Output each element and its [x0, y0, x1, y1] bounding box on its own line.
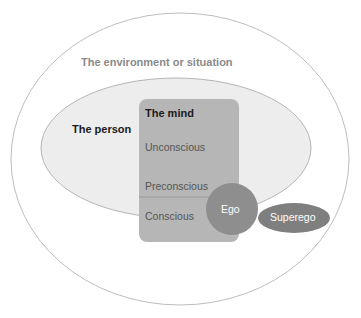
person-label: The person — [72, 123, 131, 135]
diagram-canvas — [0, 0, 361, 318]
layer-preconscious: Preconscious — [145, 180, 208, 192]
layer-unconscious: Unconscious — [145, 141, 205, 153]
superego-label: Superego — [270, 211, 316, 223]
ego-label: Ego — [221, 203, 240, 215]
mind-title: The mind — [145, 107, 194, 119]
environment-label: The environment or situation — [81, 56, 233, 68]
layer-conscious: Conscious — [145, 210, 194, 222]
